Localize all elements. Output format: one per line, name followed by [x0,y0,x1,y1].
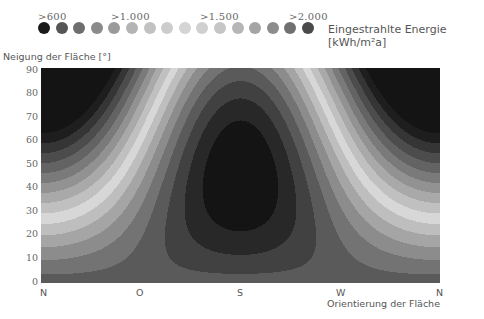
legend-swatch [108,22,120,34]
y-tick: 10 [22,252,38,263]
legend-swatch [267,22,279,34]
legend-swatch [144,22,156,34]
y-axis-title: Neigung der Fläche [°] [3,51,111,62]
x-tick-west: W [336,287,345,298]
y-tick: 60 [22,134,38,145]
legend-swatch [126,22,138,34]
legend-tick-1500: >1.500 [200,11,239,22]
x-tick-east: O [136,287,143,298]
legend-tick-600: >600 [38,11,67,22]
x-tick-north-end: N [436,287,443,298]
legend-swatch [161,22,173,34]
legend-swatch [214,22,226,34]
y-tick: 70 [22,111,38,122]
legend-swatch [196,22,208,34]
y-tick: 90 [22,64,38,75]
legend-swatch [38,22,50,34]
legend-title: Eingestrahlte Energie [kWh/m²a] [328,23,484,49]
y-tick: 0 [22,276,38,287]
x-tick-south: S [237,287,243,298]
x-tick-north: N [40,287,47,298]
y-tick: 50 [22,158,38,169]
y-tick: 30 [22,205,38,216]
legend-swatch [284,22,296,34]
legend-swatch [56,22,68,34]
legend-swatch [73,22,85,34]
legend-swatch [232,22,244,34]
y-tick: 80 [22,87,38,98]
legend-swatch [302,22,314,34]
x-axis-title: Orientierung der Fläche [327,298,440,309]
y-tick: 40 [22,181,38,192]
legend-tick-1000: >1.000 [111,11,150,22]
legend-tick-2000: >2.000 [289,11,328,22]
legend-swatch [249,22,261,34]
y-tick: 20 [22,228,38,239]
irradiance-contour-plot [41,68,440,283]
legend-swatch [91,22,103,34]
legend-swatch [179,22,191,34]
